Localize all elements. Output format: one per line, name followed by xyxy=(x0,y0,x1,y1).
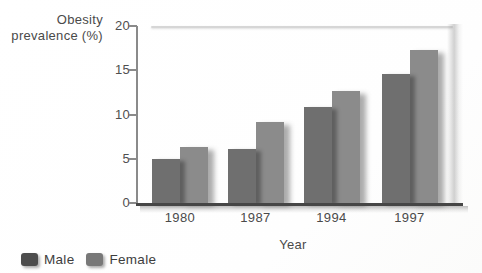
y-axis-title: Obesity prevalence (%) xyxy=(8,12,103,43)
y-tick-label: 0 xyxy=(100,195,130,211)
legend: Male Female xyxy=(21,252,156,267)
y-tick-label: 5 xyxy=(100,151,130,167)
bar-male-1994 xyxy=(304,107,332,203)
bar-male-1987 xyxy=(228,149,256,203)
bar-male-1997 xyxy=(382,74,410,203)
legend-label-female: Female xyxy=(109,252,156,267)
y-tick-mark xyxy=(129,25,137,27)
legend-item-female: Female xyxy=(86,252,156,267)
y-tick-mark xyxy=(129,69,137,71)
obesity-bar-chart-figure: Obesity prevalence (%) 05101520 19801987… xyxy=(0,0,482,273)
plot-right-shadow xyxy=(447,24,463,204)
x-axis-line xyxy=(136,203,463,206)
bar-female-1997 xyxy=(410,50,438,203)
y-tick-label: 10 xyxy=(100,107,130,123)
plot-top-border xyxy=(151,26,453,28)
female-swatch xyxy=(86,253,103,266)
legend-label-male: Male xyxy=(44,252,74,267)
y-tick-mark xyxy=(129,114,137,116)
y-axis-title-line2: prevalence (%) xyxy=(8,28,103,44)
bar-female-1987 xyxy=(256,122,284,203)
y-tick-label: 20 xyxy=(100,18,130,34)
legend-item-male: Male xyxy=(21,252,74,267)
male-swatch xyxy=(21,253,38,266)
bar-female-1980 xyxy=(180,147,208,203)
y-tick-label: 15 xyxy=(100,62,130,78)
x-axis-shadow xyxy=(140,206,468,213)
y-tick-mark xyxy=(129,158,137,160)
y-axis-title-line1: Obesity xyxy=(8,12,103,28)
bar-male-1980 xyxy=(152,159,180,203)
x-axis-title: Year xyxy=(260,237,326,252)
bar-female-1994 xyxy=(332,91,360,203)
